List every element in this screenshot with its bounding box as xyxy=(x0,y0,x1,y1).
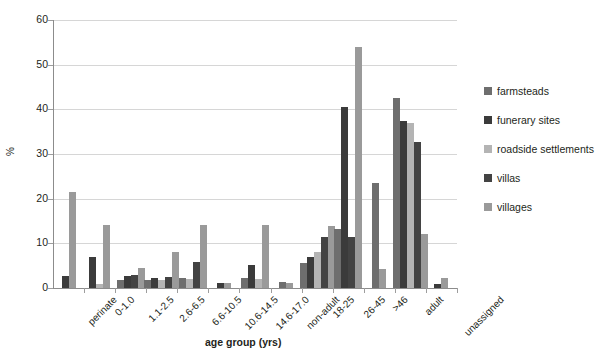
x-axis-tick-label: 2.6-6.5 xyxy=(177,294,207,324)
bar xyxy=(255,279,262,288)
bar xyxy=(307,257,314,288)
bar-group-bars xyxy=(115,20,146,288)
bar xyxy=(89,257,96,288)
x-axis-tick-label: adult xyxy=(423,294,446,317)
legend-label: roadside settlements xyxy=(497,143,594,155)
bar-group-bars xyxy=(146,20,177,288)
bar xyxy=(334,229,341,288)
bar-group-bars xyxy=(302,20,333,288)
bar xyxy=(372,183,379,288)
bar xyxy=(165,277,172,288)
legend-item: villas xyxy=(484,163,607,192)
bar xyxy=(434,284,441,288)
x-axis-title: age group (yrs) xyxy=(205,336,281,348)
bar xyxy=(69,192,76,288)
legend-swatch-funerary-sites xyxy=(484,116,492,124)
bar xyxy=(131,275,138,288)
bar-group xyxy=(302,20,333,288)
legend-label: villas xyxy=(497,172,520,184)
legend-swatch-roadside-settlements xyxy=(484,145,492,153)
plot-area xyxy=(53,20,457,288)
bar-group-bars xyxy=(208,20,239,288)
bar xyxy=(179,278,186,288)
legend-label: farmsteads xyxy=(497,85,549,97)
x-axis-tick-mark xyxy=(302,288,303,293)
x-axis-tick-mark xyxy=(395,288,396,293)
bar-group xyxy=(426,20,457,288)
bar-group xyxy=(271,20,302,288)
bar xyxy=(286,283,293,288)
x-axis-tick-label: 0-1.0 xyxy=(112,294,136,318)
bar xyxy=(414,142,421,288)
bar-group-bars xyxy=(53,20,84,288)
x-axis-tick-label: 1.1-2.5 xyxy=(146,294,176,324)
bar xyxy=(62,276,69,289)
y-axis-tick-label: 30 xyxy=(22,148,48,158)
bar xyxy=(248,265,255,288)
bar-group xyxy=(84,20,115,288)
x-axis-tick-mark xyxy=(457,288,458,293)
bar xyxy=(224,283,231,288)
bar-group xyxy=(208,20,239,288)
legend-item: roadside settlements xyxy=(484,134,607,163)
bar xyxy=(441,278,448,288)
bar xyxy=(186,279,193,288)
bar-group xyxy=(115,20,146,288)
bar xyxy=(300,263,307,288)
y-axis-tick-label: 60 xyxy=(22,14,48,24)
bar xyxy=(96,284,103,288)
y-axis-tick-label: 40 xyxy=(22,103,48,113)
x-axis-tick-label: >46 xyxy=(390,294,410,314)
bar xyxy=(241,278,248,288)
bar-group xyxy=(333,20,364,288)
x-axis-tick-label: 26-45 xyxy=(362,294,388,320)
x-axis-line xyxy=(53,288,457,289)
x-axis-tick-mark xyxy=(146,288,147,293)
x-axis-tick-label: 14.6-17.0 xyxy=(273,294,311,332)
legend-item: funerary sites xyxy=(484,105,607,134)
bar xyxy=(321,237,328,288)
y-axis-tick-labels: 6050403020100 xyxy=(20,0,48,358)
bar-group xyxy=(146,20,177,288)
y-axis-tick-label: 20 xyxy=(22,193,48,203)
legend-swatch-villages xyxy=(484,203,492,211)
bar xyxy=(400,121,407,288)
bar-group xyxy=(364,20,395,288)
bar xyxy=(393,98,400,288)
x-axis-tick-mark xyxy=(271,288,272,293)
y-axis-tick-label: 10 xyxy=(22,237,48,247)
x-axis-tick-mark xyxy=(426,288,427,293)
legend-swatch-villas xyxy=(484,174,492,182)
x-axis-tick-mark xyxy=(115,288,116,293)
bar-group xyxy=(177,20,208,288)
bar xyxy=(193,262,200,288)
legend-item: villages xyxy=(484,192,607,221)
bar xyxy=(217,283,224,288)
bar xyxy=(314,252,321,288)
y-axis-tick-label: 50 xyxy=(22,59,48,69)
x-axis-tick-label: 6.6-10.5 xyxy=(210,294,244,328)
bar-group xyxy=(395,20,426,288)
bar-group xyxy=(53,20,84,288)
x-axis-tick-label: unassigned xyxy=(462,294,506,338)
x-axis-tick-mark xyxy=(364,288,365,293)
bar xyxy=(158,280,165,288)
bar xyxy=(379,269,386,288)
x-axis-tick-label: 10.6-14.5 xyxy=(242,294,280,332)
bar xyxy=(117,280,124,288)
bar-group-bars xyxy=(239,20,270,288)
legend-swatch-farmsteads xyxy=(484,87,492,95)
bar-group-bars xyxy=(177,20,208,288)
bar-group-bars xyxy=(333,20,364,288)
x-axis-tick-mark xyxy=(177,288,178,293)
bar xyxy=(341,107,348,288)
chart-legend: farmsteadsfunerary sitesroadside settlem… xyxy=(484,76,607,221)
x-axis-tick-mark xyxy=(239,288,240,293)
bar-group-bars xyxy=(84,20,115,288)
bar-group-bars xyxy=(395,20,426,288)
bar-group-bars xyxy=(364,20,395,288)
legend-label: funerary sites xyxy=(497,114,560,126)
legend-label: villages xyxy=(497,201,532,213)
bar xyxy=(348,237,355,288)
bar xyxy=(200,225,207,288)
